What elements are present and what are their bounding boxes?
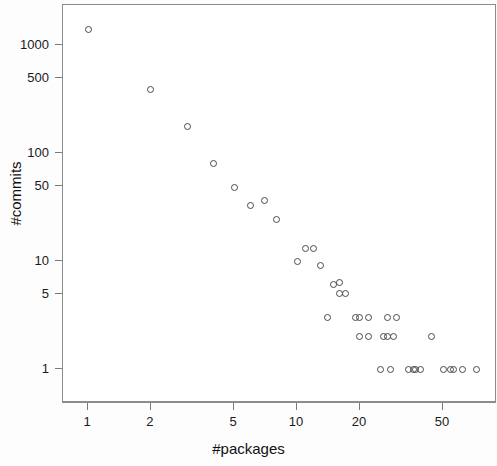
x-tick-label: 50: [435, 415, 449, 428]
data-point: [273, 216, 280, 223]
data-point: [450, 366, 457, 373]
y-tick-mark: [55, 368, 62, 369]
x-tick-label: 1: [83, 415, 90, 428]
data-point: [302, 245, 309, 252]
plot-frame: [62, 4, 496, 402]
data-point: [261, 197, 268, 204]
y-tick-label: 1000: [0, 38, 49, 51]
y-tick-mark: [55, 185, 62, 186]
data-point: [417, 366, 424, 373]
data-point: [294, 258, 301, 265]
data-points-layer: [63, 5, 495, 401]
scatter-plot-figure: 1510501005001000 125102050 #commits #pac…: [0, 0, 497, 466]
x-tick-label: 20: [352, 415, 366, 428]
x-tick-label: 5: [229, 415, 236, 428]
data-point: [310, 245, 317, 252]
y-tick-mark: [55, 293, 62, 294]
data-point: [247, 202, 254, 209]
x-tick-label: 2: [146, 415, 153, 428]
data-point: [342, 290, 349, 297]
data-point: [428, 333, 435, 340]
x-tick-mark: [87, 403, 88, 410]
data-point: [184, 123, 191, 130]
y-tick-mark: [55, 260, 62, 261]
data-point: [390, 333, 397, 340]
x-axis-title: #packages: [0, 440, 497, 457]
data-point: [317, 262, 324, 269]
y-tick-label: 500: [0, 71, 49, 84]
data-point: [324, 314, 331, 321]
x-tick-mark: [296, 403, 297, 410]
x-tick-mark: [442, 403, 443, 410]
y-tick-mark: [55, 44, 62, 45]
y-tick-label: 10: [0, 254, 49, 267]
data-point: [377, 366, 384, 373]
data-point: [365, 314, 372, 321]
y-tick-label: 1: [0, 362, 49, 375]
data-point: [231, 184, 238, 191]
x-tick-mark: [359, 403, 360, 410]
y-axis-title: #commits: [7, 134, 24, 254]
data-point: [365, 333, 372, 340]
data-point: [210, 160, 217, 167]
data-point: [356, 333, 363, 340]
x-tick-mark: [150, 403, 151, 410]
y-axis-line: [62, 4, 63, 402]
x-tick-mark: [233, 403, 234, 410]
x-axis-line: [62, 402, 496, 403]
x-tick-label: 10: [289, 415, 303, 428]
data-point: [393, 314, 400, 321]
y-tick-label: 5: [0, 287, 49, 300]
data-point: [473, 366, 480, 373]
data-point: [147, 86, 154, 93]
data-point: [85, 26, 92, 33]
data-point: [387, 366, 394, 373]
y-tick-mark: [55, 152, 62, 153]
data-point: [440, 366, 447, 373]
y-tick-mark: [55, 77, 62, 78]
data-point: [459, 366, 466, 373]
data-point: [356, 314, 363, 321]
data-point: [336, 279, 343, 286]
data-point: [384, 314, 391, 321]
